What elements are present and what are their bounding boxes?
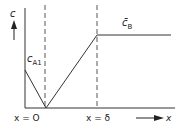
x-delta-label: x = δ — [86, 113, 111, 123]
profile-left-descending — [25, 70, 46, 108]
profile-rising — [46, 35, 97, 108]
concentration-diagram: c cA1 c̄B x = O x = δ x — [0, 0, 181, 127]
x-zero-label: x = O — [14, 113, 40, 123]
y-axis-label: c — [10, 8, 16, 19]
x-axis-label: x — [165, 113, 172, 123]
up-arrow-icon — [11, 20, 17, 29]
c-b-label: c̄B — [122, 17, 133, 31]
right-arrow-icon — [154, 115, 164, 121]
c-a1-label: cA1 — [27, 53, 42, 67]
